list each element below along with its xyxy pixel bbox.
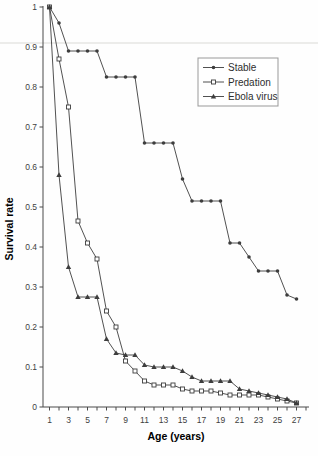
data-point-circle <box>162 141 166 145</box>
data-point-triangle <box>180 368 185 373</box>
data-point-circle <box>285 293 289 297</box>
x-tick-label: 1 <box>47 415 52 425</box>
x-tick-label: 9 <box>123 415 128 425</box>
data-point-circle <box>266 269 270 273</box>
x-tick-label: 23 <box>254 415 264 425</box>
data-point-circle <box>124 75 128 79</box>
legend: StablePredationEbola virus <box>198 58 278 106</box>
data-point-circle <box>105 75 109 79</box>
legend-label-predation: Predation <box>228 77 271 88</box>
data-point-triangle <box>189 374 194 379</box>
data-point-circle <box>86 49 90 53</box>
x-tick-label: 27 <box>292 415 302 425</box>
data-point-square <box>76 219 80 223</box>
x-tick-label: 3 <box>66 415 71 425</box>
y-tick-label: 0 <box>32 402 37 412</box>
data-point-triangle <box>56 172 61 177</box>
data-point-square <box>105 309 109 313</box>
data-point-square <box>162 383 166 387</box>
data-point-circle <box>257 269 261 273</box>
data-point-square <box>219 391 223 395</box>
x-tick-label: 7 <box>104 415 109 425</box>
data-point-square <box>124 359 128 363</box>
data-point-circle <box>200 199 204 203</box>
data-point-circle <box>219 199 223 203</box>
x-tick-label: 11 <box>140 415 149 425</box>
survival-chart: 10.90.80.70.60.50.40.30.20.1013579111315… <box>0 0 318 456</box>
data-point-circle <box>181 177 185 181</box>
data-point-circle <box>228 241 232 245</box>
data-point-square <box>152 383 156 387</box>
data-point-square <box>212 80 216 84</box>
y-tick-label: 0.3 <box>25 282 37 292</box>
x-tick-label: 21 <box>235 415 245 425</box>
series-stable <box>48 5 299 301</box>
data-point-square <box>143 379 147 383</box>
data-point-circle <box>209 199 213 203</box>
data-point-square <box>57 57 61 61</box>
y-tick-label: 0.8 <box>25 82 37 92</box>
data-point-circle <box>114 75 118 79</box>
data-point-triangle <box>113 350 118 355</box>
data-point-circle <box>57 21 61 25</box>
y-axis-title: Survival rate <box>3 197 15 260</box>
data-point-square <box>209 389 213 393</box>
x-tick-label: 25 <box>273 415 283 425</box>
data-point-square <box>228 393 232 397</box>
y-tick-label: 0.7 <box>25 122 37 132</box>
data-point-circle <box>143 141 147 145</box>
data-point-circle <box>171 141 175 145</box>
y-tick-label: 0.5 <box>25 202 37 212</box>
data-point-circle <box>76 49 80 53</box>
y-tick-label: 0.6 <box>25 162 37 172</box>
data-point-circle <box>152 141 156 145</box>
data-point-triangle <box>104 336 109 341</box>
x-tick-label: 13 <box>159 415 169 425</box>
data-point-square <box>133 369 137 373</box>
legend-label-stable: Stable <box>228 62 257 73</box>
x-tick-label: 15 <box>178 415 188 425</box>
data-point-square <box>238 393 242 397</box>
y-tick-label: 0.2 <box>25 322 37 332</box>
data-point-circle <box>247 255 251 259</box>
legend-label-ebola-virus: Ebola virus <box>228 91 277 102</box>
x-tick-label: 19 <box>216 415 226 425</box>
y-tick-label: 1 <box>32 2 37 12</box>
data-point-circle <box>133 75 137 79</box>
data-point-circle <box>295 297 299 301</box>
y-tick-label: 0.9 <box>25 42 37 52</box>
data-point-circle <box>67 49 71 53</box>
data-point-square <box>114 325 118 329</box>
data-point-circle <box>238 241 242 245</box>
x-axis-title: Age (years) <box>147 430 204 442</box>
data-point-square <box>190 389 194 393</box>
x-tick-label: 17 <box>197 415 207 425</box>
data-point-square <box>171 383 175 387</box>
data-point-square <box>247 393 251 397</box>
data-point-circle <box>190 199 194 203</box>
x-tick-label: 5 <box>85 415 90 425</box>
data-point-square <box>67 105 71 109</box>
data-point-square <box>200 389 204 393</box>
data-point-circle <box>276 269 280 273</box>
data-point-square <box>181 387 185 391</box>
y-tick-label: 0.4 <box>25 242 37 252</box>
y-tick-label: 0.1 <box>25 362 37 372</box>
data-point-triangle <box>66 264 71 269</box>
data-point-square <box>95 257 99 261</box>
data-point-circle <box>212 66 216 70</box>
figure-container: 10.90.80.70.60.50.40.30.20.1013579111315… <box>0 0 318 456</box>
data-point-circle <box>95 49 99 53</box>
data-point-square <box>86 241 90 245</box>
